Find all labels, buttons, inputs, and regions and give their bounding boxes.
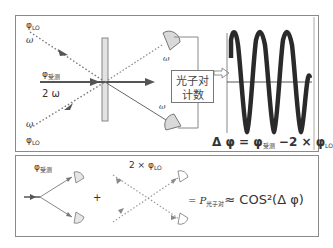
counter-line-1: 光子对 [172,75,213,89]
equals-p: = P [188,195,206,206]
delta-phi-text: Δ φ = φ [212,135,263,149]
bottom-label-two-phi-lo: 2 × φLO [129,161,162,171]
label-omega-out-top: ω [163,55,170,63]
delta-phi-formula: Δ φ = φ受测 −2 × φLO [212,135,333,150]
lo-subscript: LO [32,139,40,146]
signal-subscript: 受测 [40,166,52,173]
label-omega-top: ω [26,36,33,45]
label-phi-lo-bottom: φLO [26,136,40,146]
out-beam-top [105,45,162,82]
signal-subscript: 受测 [48,73,60,80]
lo-subscript: LO [154,164,162,171]
lo-subscript: LO [325,142,333,149]
crystal-plate [102,38,108,121]
plus-sign: + [93,193,101,203]
probability-formula: = P光子对≈ COS²(Δ φ) [188,192,304,208]
label-phi-signal: φ受测 [42,70,60,80]
lo-subscript: LO [32,24,40,31]
label-omega-bottom: ω [26,120,33,129]
out-beam-bottom [105,82,166,120]
counter-line-2: 计数 [172,89,213,103]
two-phi-text: 2 × φ [129,160,154,170]
label-phi-lo-top: φLO [26,21,40,31]
label-two-omega: 2 ω [42,89,60,99]
wire-bottom [178,102,198,128]
signal-subscript: 受测 [263,142,275,149]
detector-top [163,31,180,50]
photon-pair-counter-box: 光子对 计数 [171,70,214,103]
minus-term: −2 × φ [275,135,325,149]
label-omega-out-bottom: ω [159,103,166,111]
bottom-label-phi-signal: φ受测 [34,163,52,173]
cos-squared-term: ≈ COS²(Δ φ) [224,192,304,207]
photon-pair-subscript: 光子对 [206,200,224,207]
